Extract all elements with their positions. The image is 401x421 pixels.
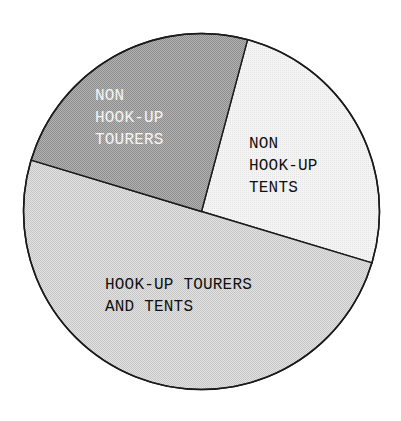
slice-label-line: HOOK-UP TOURERS bbox=[105, 276, 252, 294]
pie-chart: NONHOOK-UPTENTSHOOK-UP TOURERSAND TENTSN… bbox=[0, 0, 401, 421]
pie-wedges bbox=[24, 34, 380, 390]
slice-label-line: HOOK-UP bbox=[95, 109, 164, 127]
pie-chart-canvas: NONHOOK-UPTENTSHOOK-UP TOURERSAND TENTSN… bbox=[0, 0, 401, 421]
slice-label-line: AND TENTS bbox=[105, 298, 193, 316]
slice-label-line: TOURERS bbox=[95, 131, 164, 149]
slice-label-line: TENTS bbox=[249, 179, 298, 197]
slice-label-line: NON bbox=[95, 87, 124, 105]
slice-label-line: HOOK-UP bbox=[249, 157, 318, 175]
slice-label-line: NON bbox=[249, 135, 278, 153]
